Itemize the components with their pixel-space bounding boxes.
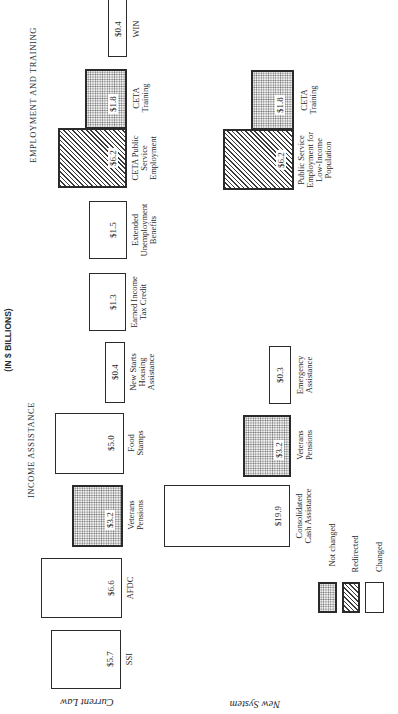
row-label-new-system: New System	[230, 699, 280, 710]
value-current-new-starts: $0.4	[110, 364, 120, 380]
legend-label-redirected: Redirected	[350, 536, 360, 573]
bar-new-consolidated	[164, 485, 290, 547]
label-new-consolidated: Consolidated Cash Assistance	[295, 488, 313, 543]
value-new-consolidated: $19.9	[273, 506, 283, 526]
label-line: Training	[309, 86, 318, 115]
value-current-ssi: $5.7	[105, 651, 115, 667]
value-current-win: $0.4	[113, 21, 123, 37]
label-current-eitc: Earned Income Tax Credit	[130, 276, 148, 328]
legend-label-not-changed: Not changed	[327, 523, 337, 566]
group-title-employment-training: EMPLOYMENT AND TRAINING	[28, 27, 38, 163]
bar-current-ceta-training	[85, 69, 127, 129]
units-caption: (IN $ BILLIONS)	[3, 308, 13, 371]
label-new-ceta-training: CETA Training	[300, 86, 318, 115]
bar-new-ceta-training	[251, 70, 294, 130]
value-new-veterans: $3.2	[274, 440, 284, 460]
label-current-veterans: Veterans Pensions	[127, 500, 145, 530]
label-current-afdc: AFDC	[126, 577, 135, 600]
label-line: Population	[324, 132, 333, 188]
label-new-veterans: Veterans Pensions	[296, 430, 314, 460]
value-new-ceta-training: $1.8	[275, 95, 285, 115]
value-current-food-stamps: $5.0	[106, 435, 116, 451]
value-new-pse-low-income: $6.2	[276, 150, 286, 170]
value-current-afdc: $6.6	[106, 580, 116, 596]
label-line: Pensions	[136, 500, 145, 530]
label-new-pse-low-income: Public Service Employment for Low-Income…	[297, 132, 333, 188]
label-line: Tax Credit	[139, 276, 148, 328]
value-current-eitc: $1.3	[108, 294, 118, 310]
label-current-food-stamps: Food Stamps	[127, 430, 145, 455]
label-line: Assistance	[146, 353, 155, 391]
bar-current-veterans	[72, 485, 123, 547]
label-current-ext-unemp: Extended Unemployment Benefits	[131, 204, 158, 257]
row-label-current-law: Current Law	[60, 697, 114, 708]
legend-swatch-changed	[365, 582, 384, 613]
value-current-ceta-pse: $6.2	[108, 148, 118, 168]
value-current-ceta-training: $1.8	[108, 94, 118, 114]
label-current-new-starts: New Starts Housing Assistance	[129, 353, 156, 391]
label-current-ssi: SSI	[125, 653, 134, 665]
legend-swatch-not-changed	[318, 582, 337, 613]
label-new-emergency: Emergency Assistance	[296, 356, 314, 395]
label-line: Stamps	[136, 430, 145, 455]
label-line: Assistance	[305, 356, 314, 395]
group-title-income-assistance: INCOME ASSISTANCE	[26, 402, 36, 498]
label-current-ceta-training: CETA Training	[132, 84, 150, 113]
legend-swatch-redirected	[342, 582, 360, 613]
label-line: Cash Assistance	[304, 488, 313, 543]
label-line: Pensions	[305, 430, 314, 460]
value-current-veterans: $3.2	[105, 510, 115, 530]
legend-label-changed: Changed	[374, 542, 384, 572]
label-line: Training	[141, 84, 150, 113]
label-current-win: WIN	[132, 21, 141, 38]
label-line: Benefits	[148, 204, 157, 257]
value-current-ext-unemp: $1.5	[108, 222, 118, 238]
label-current-ceta-pse: CETA Public Service Employment	[131, 136, 158, 181]
value-new-emergency: $0.3	[275, 367, 285, 383]
label-line: Employment	[148, 136, 157, 181]
